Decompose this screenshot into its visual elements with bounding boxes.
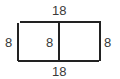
label-left-height: 8 [5,36,12,49]
label-right-height: 8 [104,36,111,49]
label-middle-height: 8 [46,36,53,49]
label-top-length: 18 [52,4,66,17]
label-bottom-length: 18 [52,65,66,78]
